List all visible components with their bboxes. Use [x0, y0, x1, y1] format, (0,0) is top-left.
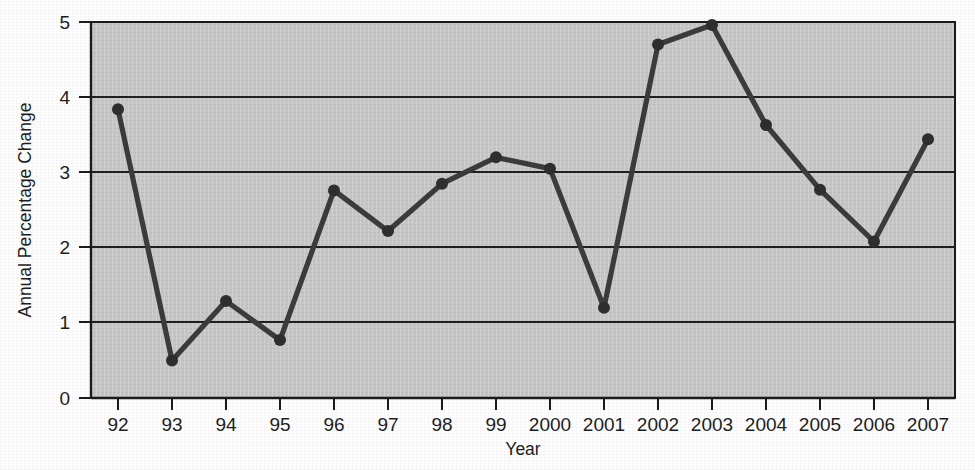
- data-point-93: [166, 354, 178, 366]
- x-axis-title: Year: [505, 439, 541, 459]
- plot-area-texture: [91, 22, 955, 398]
- data-point-2006: [868, 236, 880, 248]
- x-tick-label-2003: 2003: [691, 414, 733, 435]
- x-tick-label-2001: 2001: [583, 414, 625, 435]
- data-point-2007: [922, 133, 934, 145]
- x-tick-label-2000: 2000: [529, 414, 571, 435]
- data-point-99: [490, 151, 502, 163]
- data-point-95: [274, 334, 286, 346]
- x-tick-label-98: 98: [431, 414, 452, 435]
- data-point-2004: [760, 119, 772, 131]
- y-tick-label-4: 4: [59, 87, 70, 108]
- x-tick-label-2006: 2006: [853, 414, 895, 435]
- y-tick-label-2: 2: [59, 237, 70, 258]
- x-tick-label-2004: 2004: [745, 414, 788, 435]
- y-tick-label-5: 5: [59, 12, 70, 33]
- data-point-97: [382, 225, 394, 237]
- x-tick-label-99: 99: [485, 414, 506, 435]
- x-tick-label-92: 92: [107, 414, 128, 435]
- chart-figure: 0 1 2 3 4 5 Annual Percentage Change 929…: [0, 0, 975, 470]
- x-tick-label-2002: 2002: [637, 414, 679, 435]
- data-point-2005: [814, 184, 826, 196]
- x-tick-label-93: 93: [161, 414, 182, 435]
- data-point-94: [220, 295, 232, 307]
- data-point-2002: [652, 39, 664, 51]
- line-chart: 0 1 2 3 4 5 Annual Percentage Change 929…: [0, 0, 975, 470]
- x-axis-tick-labels: 9293949596979899200020012002200320042005…: [107, 414, 949, 435]
- x-tick-label-2005: 2005: [799, 414, 841, 435]
- y-axis-title: Annual Percentage Change: [15, 102, 35, 317]
- y-axis-tick-labels: 0 1 2 3 4 5: [59, 12, 70, 409]
- data-point-96: [328, 184, 340, 196]
- y-axis-ticks: [79, 22, 91, 398]
- y-tick-label-3: 3: [59, 162, 70, 183]
- data-point-2000: [544, 163, 556, 175]
- x-tick-label-96: 96: [323, 414, 344, 435]
- x-tick-label-95: 95: [269, 414, 290, 435]
- data-point-98: [436, 178, 448, 190]
- data-point-2001: [598, 302, 610, 314]
- y-tick-label-1: 1: [59, 312, 70, 333]
- x-tick-label-2007: 2007: [907, 414, 949, 435]
- data-point-92: [112, 103, 124, 115]
- y-tick-label-0: 0: [59, 388, 70, 409]
- data-point-2003: [706, 19, 718, 31]
- x-axis-ticks: [118, 398, 928, 410]
- x-tick-label-94: 94: [215, 414, 237, 435]
- x-tick-label-97: 97: [377, 414, 398, 435]
